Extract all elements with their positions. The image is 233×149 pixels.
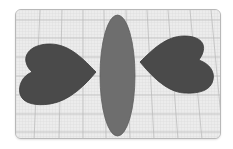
heart-shape-right[interactable] — [140, 36, 213, 93]
heart-shape-left[interactable] — [20, 44, 97, 105]
3d-viewport[interactable] — [0, 0, 233, 149]
ellipse-shape-center[interactable] — [100, 15, 135, 136]
scene-shapes — [0, 0, 233, 149]
